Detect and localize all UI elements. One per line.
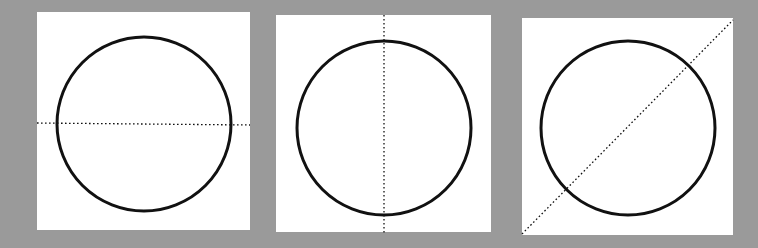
- panel-figure: [37, 12, 250, 230]
- panel-vertical-diameter: [276, 15, 491, 232]
- circle-shape: [541, 41, 715, 215]
- panel-diagonal-line: [522, 18, 733, 235]
- panel-horizontal-diameter: [37, 12, 250, 230]
- dotted-line: [37, 123, 250, 125]
- panel-figure: [276, 15, 491, 232]
- circle-shape: [57, 37, 231, 211]
- dotted-line: [522, 20, 733, 234]
- panel-figure: [522, 18, 733, 235]
